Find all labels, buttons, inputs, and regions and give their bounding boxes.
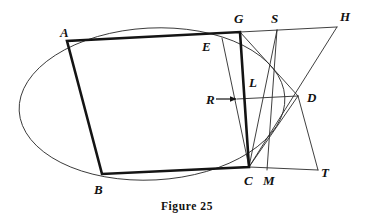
vertex-label-E: E xyxy=(202,40,211,53)
vertex-label-D: D xyxy=(307,91,316,104)
vertex-label-R: R xyxy=(206,93,215,106)
vertex-label-T: T xyxy=(321,166,329,179)
vertex-label-M: M xyxy=(263,174,275,187)
vertex-label-G: G xyxy=(234,12,243,25)
figure-caption: Figure 25 xyxy=(0,200,374,212)
vertex-label-S: S xyxy=(271,12,278,25)
segment-S-M xyxy=(267,30,277,170)
vertex-label-B: B xyxy=(94,183,103,196)
segment-G-H xyxy=(240,27,337,32)
segment-D-T xyxy=(298,96,318,170)
geometry-diagram xyxy=(0,0,374,222)
vertex-label-C: C xyxy=(244,174,253,187)
vertex-label-L: L xyxy=(249,76,257,89)
vertex-label-A: A xyxy=(60,26,69,39)
vertex-label-H: H xyxy=(340,10,350,23)
quadrilateral-ABCG xyxy=(67,32,249,174)
segment-C-T xyxy=(249,167,318,170)
segment-R-D xyxy=(237,96,298,99)
figure-25-container: A B C D E G H L M R S T Figure 25 xyxy=(0,0,374,222)
segment-H-C xyxy=(249,27,337,167)
construction-lines xyxy=(222,27,337,170)
